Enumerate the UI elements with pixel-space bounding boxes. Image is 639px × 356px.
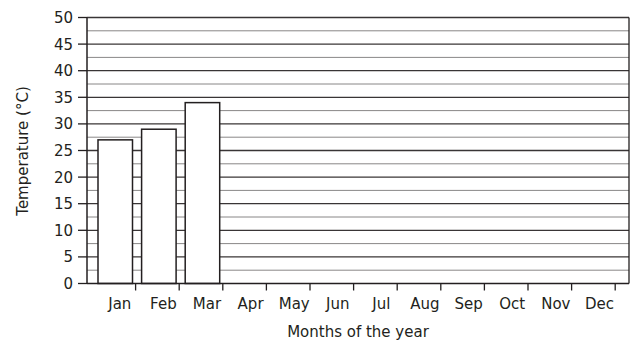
- x-tick-label-aug: Aug: [410, 295, 439, 313]
- y-tick-label: 20: [54, 169, 73, 187]
- x-tick-label-mar: Mar: [193, 295, 222, 313]
- bars: [98, 103, 220, 284]
- y-tick-label: 45: [54, 36, 73, 54]
- y-tick-label: 10: [54, 222, 73, 240]
- x-axis-title: Months of the year: [287, 323, 430, 341]
- x-tick-label-dec: Dec: [585, 295, 614, 313]
- x-axis-ticks: JanFebMarAprMayJunJulAugSepOctNovDec: [107, 284, 615, 313]
- y-axis-title: Temperature (°C): [14, 86, 32, 216]
- y-axis-ticks: 05101520253035404550: [54, 9, 87, 293]
- x-tick-label-may: May: [279, 295, 310, 313]
- x-tick-label-apr: Apr: [238, 295, 265, 313]
- y-tick-label: 0: [63, 275, 73, 293]
- x-tick-label-jan: Jan: [107, 295, 131, 313]
- bar-jan: [98, 140, 133, 284]
- y-tick-label: 35: [54, 89, 73, 107]
- x-tick-label-nov: Nov: [541, 295, 570, 313]
- x-tick-label-oct: Oct: [499, 295, 525, 313]
- bar-feb: [142, 129, 177, 283]
- x-tick-label-feb: Feb: [150, 295, 177, 313]
- y-tick-label: 15: [54, 195, 73, 213]
- y-tick-label: 30: [54, 115, 73, 133]
- y-tick-label: 5: [63, 248, 73, 266]
- bar-chart: 05101520253035404550 JanFebMarAprMayJunJ…: [0, 0, 639, 356]
- y-tick-label: 40: [54, 62, 73, 80]
- x-tick-label-jun: Jun: [325, 295, 349, 313]
- x-tick-label-sep: Sep: [454, 295, 482, 313]
- x-tick-label-jul: Jul: [371, 295, 390, 313]
- y-tick-label: 25: [54, 142, 73, 160]
- y-tick-label: 50: [54, 9, 73, 27]
- bar-mar: [185, 103, 220, 284]
